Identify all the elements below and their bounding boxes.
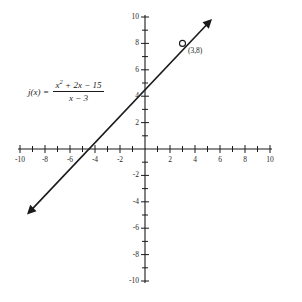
- x-tick-label: 4: [193, 156, 197, 164]
- equation-equals-sign: =: [44, 87, 53, 97]
- removable-discontinuity-marker: [180, 40, 186, 46]
- x-tick-label: 8: [243, 156, 247, 164]
- y-tick-label: 6: [135, 66, 139, 74]
- function-graph-figure: -10 -8 -6 -4 -2 2 4 6 8 10 10 8 6 4 2 -2…: [0, 0, 302, 302]
- x-tick-label: 2: [168, 156, 172, 164]
- y-tick-label: -6: [133, 224, 139, 232]
- equation-denominator: x − 3: [66, 92, 91, 103]
- y-tick-label: -8: [133, 251, 139, 259]
- x-tick-label: 10: [266, 156, 274, 164]
- coordinate-plane: [0, 0, 302, 302]
- y-tick-label: -4: [133, 198, 139, 206]
- x-tick-label: -2: [117, 156, 123, 164]
- numerator-exponent: 2: [60, 78, 63, 85]
- x-tick-label: -6: [67, 156, 73, 164]
- x-tick-label: -10: [15, 156, 25, 164]
- hole-point-label: (3,8): [188, 46, 202, 55]
- function-curve: [30, 22, 209, 211]
- x-tick-label: 6: [218, 156, 222, 164]
- x-tick-label: -8: [42, 156, 48, 164]
- y-tick-label: -2: [133, 172, 139, 180]
- equation-fraction: x2 + 2x − 15 x − 3: [53, 80, 105, 103]
- y-tick-label: 4: [135, 92, 139, 100]
- numerator-rest: + 2x − 15: [65, 80, 101, 90]
- function-equation: j(x) = x2 + 2x − 15 x − 3: [28, 80, 104, 103]
- y-tick-label: -10: [129, 277, 139, 285]
- equation-function-name: j(x): [28, 87, 44, 97]
- y-tick-label: 10: [132, 13, 140, 21]
- y-tick-label: 8: [135, 40, 139, 48]
- equation-numerator: x2 + 2x − 15: [53, 80, 105, 91]
- y-tick-label: 2: [135, 119, 139, 127]
- x-tick-label: -4: [92, 156, 98, 164]
